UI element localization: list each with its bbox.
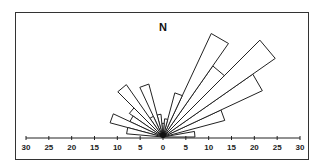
axis-tick-label: 5 bbox=[138, 143, 143, 152]
rose-diagram: N 30252015105051015202530 bbox=[0, 0, 325, 168]
axis-tick-label: 5 bbox=[184, 143, 189, 152]
axis-tick-label: 20 bbox=[250, 143, 259, 152]
axis-tick-label: 15 bbox=[227, 143, 236, 152]
axis-tick-label: 10 bbox=[204, 143, 213, 152]
petals-group bbox=[110, 34, 275, 137]
axis-tick-label: 30 bbox=[296, 143, 305, 152]
axis-tick-label: 25 bbox=[273, 143, 282, 152]
axis-tick-label: 15 bbox=[90, 143, 99, 152]
north-label: N bbox=[159, 21, 167, 33]
axis-tick-label: 0 bbox=[161, 143, 166, 152]
axis-tick-label: 10 bbox=[113, 143, 122, 152]
axis-tick-label: 30 bbox=[22, 143, 31, 152]
axis-group: 30252015105051015202530 bbox=[22, 132, 305, 152]
axis-tick-label: 25 bbox=[44, 143, 53, 152]
origin-point bbox=[160, 132, 166, 138]
axis-tick-label: 20 bbox=[67, 143, 76, 152]
